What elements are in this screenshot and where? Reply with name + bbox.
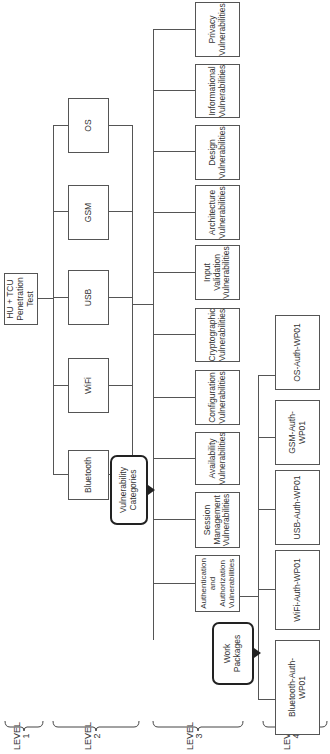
level3-node-privacy: Privacy Vulnerabilities [195, 2, 240, 57]
callout-tail [148, 485, 155, 495]
connector [258, 509, 275, 510]
level3-bus [153, 30, 154, 640]
connector [258, 699, 275, 700]
level-3-label: LEVEL 3 [186, 716, 205, 754]
connector [153, 583, 195, 584]
callout-tail [254, 649, 261, 659]
connector [258, 589, 275, 590]
level3-node-session-management: Session Management Vulnerabilities [195, 492, 240, 548]
level3-node-architecture: Architecture Vulnerabilities [195, 185, 240, 240]
level3-node-authentication-authorization: Authentication and Authorization Vulnera… [195, 555, 240, 612]
level3-node-design: Design Vulnerabilities [195, 125, 240, 180]
level3-node-cryptographic: Cryptographic Vulnerabilities [195, 308, 240, 362]
connector [258, 437, 275, 438]
level4-node-os-auth-wp01: OS-Auth-WP01 [275, 315, 320, 390]
level4-node-wifi-auth-wp01: WiFi-Auth-WP01 [275, 550, 320, 630]
level-1-label: LEVEL 1 [13, 716, 32, 754]
level3-node-informational: Informational Vulnerabilities [195, 64, 240, 118]
level2-bottom-bus [132, 125, 133, 475]
connector [109, 211, 132, 212]
connector [132, 304, 153, 305]
connector [53, 297, 68, 298]
level-2-label: LEVEL 2 [84, 716, 103, 754]
level4-node-usb-auth-wp01: USB-Auth-WP01 [275, 470, 320, 545]
level2-node-gsm: GSM [68, 185, 109, 240]
connector [153, 90, 195, 91]
level3-node-availability: Availability Vulnerabilities [195, 432, 240, 485]
connector [109, 297, 132, 298]
level2-node-bluetooth: Bluetooth [68, 450, 109, 500]
connector [153, 397, 195, 398]
connector [153, 458, 195, 459]
connector [53, 385, 68, 386]
callout-vulnerability-categories: Vulnerability Categories [110, 455, 148, 525]
level3-node-input-validation: Input Validation Vulnerabilities [195, 245, 240, 300]
connector [258, 375, 275, 376]
connector [153, 29, 195, 30]
level4-node-gsm-auth-wp01: GSM-Auth-WP01 [275, 400, 320, 465]
connector [53, 211, 68, 212]
callout-work-packages: Work Packages [212, 622, 254, 685]
connector [153, 519, 195, 520]
connector [109, 385, 132, 386]
level2-node-os: OS [68, 98, 109, 153]
connector [109, 125, 132, 126]
connector [53, 474, 68, 475]
callout-work-packages-text: Work Packages [223, 635, 243, 672]
level2-node-usb: USB [68, 270, 109, 325]
connector [38, 298, 53, 299]
level2-node-wifi: WiFi [68, 358, 109, 413]
callout-vulnerability-categories-text: Vulnerability Categories [119, 467, 139, 513]
connector [153, 272, 195, 273]
connector [153, 212, 195, 213]
level3-node-configuration: Configuration Vulnerabilities [195, 370, 240, 425]
connector [240, 596, 258, 597]
level4-node-bluetooth-auth-wp01: Bluetooth-Auth- WP01 [275, 640, 320, 735]
connector [153, 151, 195, 152]
connector [53, 125, 68, 126]
connector [153, 334, 195, 335]
root-node-penetration-test: HU + TCU Penetration Test [4, 273, 38, 325]
level2-top-bus [53, 125, 54, 475]
